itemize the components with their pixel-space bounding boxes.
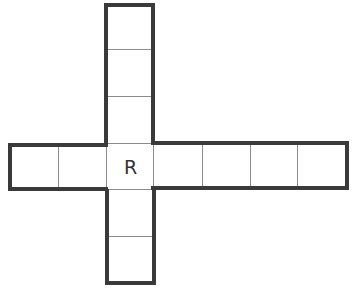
top-arm-divider-2 (107, 96, 152, 97)
top-arm-top-edge (104, 3, 155, 7)
left-arm-top-edge (8, 143, 108, 147)
center-cell-bottom-border (107, 189, 153, 190)
center-cell-top-border (107, 143, 153, 144)
bottom-arm-left-edge (105, 189, 109, 285)
top-arm-divider-1 (107, 49, 152, 50)
bottom-arm-bottom-edge (105, 281, 156, 285)
bottom-arm-divider-1 (107, 236, 152, 237)
row-divider-5 (250, 145, 251, 189)
right-arm-bottom-edge (151, 186, 349, 190)
center-cell-right-border (153, 143, 154, 190)
center-letter: R (108, 158, 153, 177)
row-divider-1 (58, 145, 59, 189)
row-divider-4 (202, 145, 203, 189)
left-arm-bottom-edge (8, 187, 108, 191)
right-arm-top-edge (151, 141, 349, 145)
right-arm-right-edge (345, 141, 349, 190)
top-arm-left-edge (104, 3, 108, 146)
left-arm-left-edge (8, 143, 12, 191)
row-divider-6 (297, 144, 298, 188)
bottom-arm-right-edge (152, 189, 156, 285)
top-arm-right-edge (151, 3, 155, 145)
center-cell-left-border (106, 143, 107, 190)
